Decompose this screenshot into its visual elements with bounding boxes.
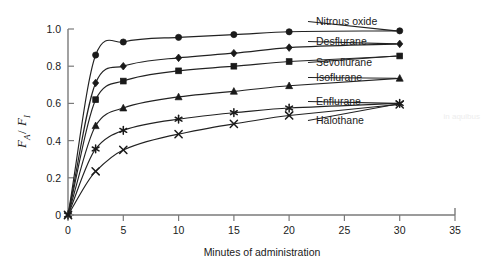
marker-desflurane <box>175 54 181 62</box>
y-axis-title-slash: / <box>14 130 29 134</box>
x-axis-tick-labels: 0 5 10 15 20 25 30 35 <box>65 224 461 236</box>
marker-desflurane <box>120 62 126 70</box>
x-tick-label: 5 <box>120 224 126 236</box>
series-label-halothane: Halothane <box>316 114 364 126</box>
marker-nitrous-oxide <box>175 34 181 40</box>
y-axis-title: F A / F I <box>14 114 32 149</box>
curve-desflurane <box>68 44 400 215</box>
y-tick-label: 0.8 <box>46 60 61 72</box>
x-tick-label: 20 <box>283 224 295 236</box>
x-tick-label: 0 <box>65 224 71 236</box>
series-label-isoflurane: Isoflurane <box>316 71 362 83</box>
marker-enflurane <box>120 126 127 134</box>
x-tick-label: 15 <box>228 224 240 236</box>
marker-nitrous-oxide <box>120 39 126 45</box>
x-tick-label: 10 <box>173 224 185 236</box>
marker-desflurane <box>397 40 403 48</box>
x-axis-title: Minutes of administration <box>204 246 321 258</box>
series-label-sevoflurane: Sevoflurane <box>316 56 372 68</box>
y-axis-tick-labels: 1.0 0.8 0.6 0.4 0.2 0 <box>46 23 61 221</box>
marker-sevoflurane <box>93 97 99 103</box>
marker-nitrous-oxide <box>93 52 99 58</box>
marker-sevoflurane <box>176 68 182 74</box>
scan-artifact-text: in aquibus <box>444 112 480 121</box>
x-tick-label: 35 <box>449 224 461 236</box>
marker-halothane <box>92 168 99 175</box>
series-label-enflurane: Enflurane <box>316 95 361 107</box>
y-tick-label: 0.4 <box>46 135 61 147</box>
x-axis-ticks <box>68 215 455 221</box>
series-label-nitrous-oxide: Nitrous oxide <box>316 15 377 27</box>
marker-nitrous-oxide <box>397 28 403 34</box>
marker-sevoflurane <box>120 78 126 84</box>
marker-desflurane <box>93 79 99 87</box>
marker-desflurane <box>231 49 237 57</box>
x-tick-label: 30 <box>394 224 406 236</box>
marker-sevoflurane <box>397 53 403 59</box>
marker-desflurane <box>286 44 292 52</box>
series-label-desflurane: Desflurane <box>316 35 367 47</box>
y-tick-label: 0.2 <box>46 172 61 184</box>
y-axis-title-denominator-sub: I <box>22 114 32 119</box>
y-tick-label: 1.0 <box>46 23 61 35</box>
marker-nitrous-oxide <box>231 31 237 37</box>
marker-halothane <box>120 146 127 153</box>
marker-nitrous-oxide <box>286 29 292 35</box>
chart-figure: 1.0 0.8 0.6 0.4 0.2 0 0 5 10 15 20 25 30 <box>0 0 488 269</box>
marker-sevoflurane <box>231 63 237 69</box>
x-tick-label: 25 <box>339 224 351 236</box>
y-tick-label: 0.6 <box>46 97 61 109</box>
y-tick-label: 0 <box>55 209 61 221</box>
y-axis-title-numerator-sub: A <box>22 134 32 141</box>
line-chart-canvas: 1.0 0.8 0.6 0.4 0.2 0 0 5 10 15 20 25 30 <box>0 0 488 269</box>
marker-sevoflurane <box>286 59 292 65</box>
